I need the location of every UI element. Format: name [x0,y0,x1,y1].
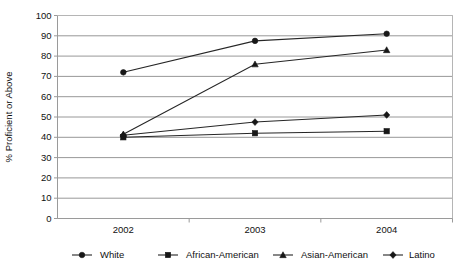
ytick-label: 10 [41,192,52,203]
ytick-label: 100 [36,10,52,21]
datapoint-african-american-2003 [252,131,257,136]
legend-label-white: White [100,249,124,260]
ytick-label: 0 [46,213,51,224]
datapoint-latino-2003 [252,119,258,126]
ytick-label: 80 [41,50,52,61]
legend-marker-white [79,252,85,258]
datapoint-white-2002 [121,70,127,76]
ytick-label: 20 [41,172,52,183]
datapoint-white-2003 [252,38,258,44]
ytick-label: 50 [41,111,52,122]
datapoint-white-2004 [384,31,390,37]
legend-marker-african-american [165,252,170,257]
ytick-label: 30 [41,152,52,163]
datapoint-african-american-2004 [384,129,389,134]
chart-canvas: 0102030405060708090100200220032004% Prof… [0,0,454,266]
xtick-label-2004: 2004 [376,224,397,235]
legend-label-asian-american: Asian-American [301,249,368,260]
xtick-label-2003: 2003 [244,224,265,235]
ytick-label: 90 [41,30,52,41]
line-chart: 0102030405060708090100200220032004% Prof… [0,0,454,266]
legend-label-african-american: African-American [186,249,259,260]
ytick-label: 70 [41,70,52,81]
chart-svg: 0102030405060708090100200220032004% Prof… [0,0,454,266]
y-axis-title: % Proficient or Above [3,72,14,163]
legend-marker-latino [390,252,396,259]
xtick-label-2002: 2002 [113,224,134,235]
legend-label-latino: Latino [409,249,435,260]
ytick-label: 60 [41,91,52,102]
ytick-label: 40 [41,131,52,142]
